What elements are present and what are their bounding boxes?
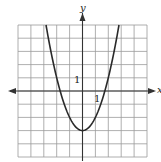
x-tick-label-1: 1 (94, 93, 100, 104)
x-axis-right-arrow-icon (148, 88, 156, 94)
y-axis-label: y (79, 2, 86, 13)
y-tick-label-1: 1 (74, 74, 80, 85)
parabola-graph: y x 1 1 (0, 0, 161, 162)
y-axis-arrow-icon (80, 13, 86, 21)
x-axis-label: x (157, 84, 161, 95)
x-axis-left-arrow-icon (8, 88, 16, 94)
